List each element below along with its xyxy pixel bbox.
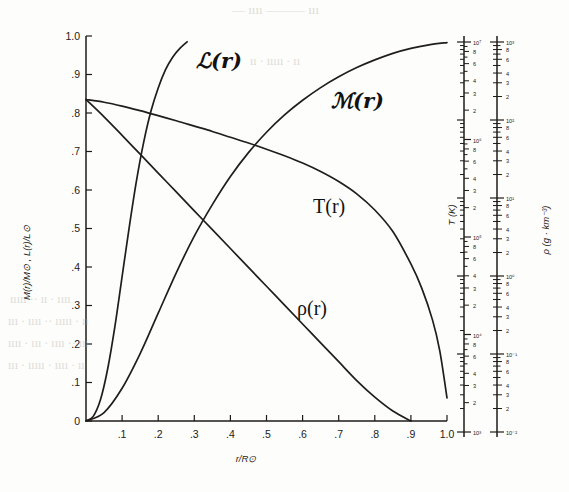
temperature-minor-label: 8 bbox=[473, 49, 476, 55]
left-tick-label: .1 bbox=[71, 376, 80, 388]
right-density-axis: 10³8643210²8643210¹8643210⁰8643210⁻¹8643… bbox=[490, 36, 551, 437]
temperature-curve-label: T(r) bbox=[313, 195, 345, 218]
density-minor-label: 8 bbox=[506, 47, 509, 53]
density-minor-label: 3 bbox=[506, 80, 509, 86]
density-minor-label: 2 bbox=[506, 250, 509, 256]
temperature-decade-label: 10⁷ bbox=[473, 40, 481, 46]
curve-labels: ℒ(r) ℳ(r) T(r) ρ(r) bbox=[196, 48, 384, 320]
temperature-minor-label: 8 bbox=[473, 342, 476, 348]
temperature-minor-label: 8 bbox=[473, 147, 476, 153]
temperature-minor-label: 4 bbox=[473, 273, 476, 279]
temperature-minor-label: 3 bbox=[473, 383, 476, 389]
density-minor-label: 6 bbox=[506, 291, 509, 297]
temperature-decade-label: 10⁴ bbox=[473, 333, 482, 339]
solar-structure-figure: — ıııı ——— ııı ıı · ııııı · ıı ııııı ·· … bbox=[0, 0, 569, 492]
temperature-decade-label: 10⁶ bbox=[473, 138, 482, 144]
bottom-tick-label: .1 bbox=[118, 428, 127, 440]
bottom-axis: .1.2.3.4.5.6.7.8.91.0 r/R⊙ bbox=[86, 415, 454, 464]
figure-canvas: 0.1.2.3.4.5.6.7.8.91.0 M(r)/M⊙ , L(r)/L⊙… bbox=[0, 0, 569, 492]
temperature-minor-label: 6 bbox=[473, 256, 476, 262]
density-minor-label: 4 bbox=[506, 383, 509, 389]
density-minor-label: 3 bbox=[506, 158, 509, 164]
left-tick-label: 1.0 bbox=[65, 30, 80, 42]
temperature-axis-title: T (K) bbox=[446, 204, 457, 225]
temperature-minor-label: 3 bbox=[473, 91, 476, 97]
temperature-minor-label: 4 bbox=[473, 371, 476, 377]
density-minor-label: 2 bbox=[506, 172, 509, 178]
density-decade-label: 10¹ bbox=[506, 196, 514, 202]
bottom-tick-label: .6 bbox=[298, 428, 307, 440]
left-tick-label: .3 bbox=[71, 299, 80, 311]
left-tick-label: .8 bbox=[71, 107, 80, 119]
density-minor-label: 4 bbox=[506, 305, 509, 311]
density-minor-label: 4 bbox=[506, 71, 509, 77]
density-minor-label: 8 bbox=[506, 359, 509, 365]
density-minor-label: 3 bbox=[506, 314, 509, 320]
temperature-minor-label: 6 bbox=[473, 61, 476, 67]
left-tick-label: .5 bbox=[71, 222, 80, 234]
density-minor-label: 8 bbox=[506, 281, 509, 287]
temperature-minor-label: 2 bbox=[473, 205, 476, 211]
density-decade-label: 10⁰ bbox=[506, 274, 515, 280]
density-minor-label: 2 bbox=[506, 406, 509, 412]
left-axis: 0.1.2.3.4.5.6.7.8.91.0 M(r)/M⊙ , L(r)/L⊙ bbox=[21, 30, 92, 427]
temperature-minor-label: 4 bbox=[473, 176, 476, 182]
temperature-minor-label: 8 bbox=[473, 244, 476, 250]
left-tick-label: .2 bbox=[71, 338, 80, 350]
density-decade-label: 10² bbox=[506, 118, 514, 124]
left-axis-title: M(r)/M⊙ , L(r)/L⊙ bbox=[21, 225, 32, 300]
bottom-tick-label: .9 bbox=[407, 428, 416, 440]
density-decade-label: 10³ bbox=[506, 40, 514, 46]
temperature-minor-label: 6 bbox=[473, 159, 476, 165]
temperature-minor-label: 6 bbox=[473, 354, 476, 360]
density-minor-label: 6 bbox=[506, 135, 509, 141]
density-decade-label: 10⁻¹ bbox=[506, 352, 517, 358]
left-tick-label: 0 bbox=[74, 415, 80, 427]
density-minor-label: 4 bbox=[506, 227, 509, 233]
density-minor-label: 6 bbox=[506, 369, 509, 375]
density-minor-label: 4 bbox=[506, 149, 509, 155]
bottom-tick-label: 1.0 bbox=[440, 428, 455, 440]
left-tick-label: .4 bbox=[71, 261, 80, 273]
bottom-tick-label: .2 bbox=[154, 428, 163, 440]
density-minor-label: 3 bbox=[506, 392, 509, 398]
luminosity-curve-label: ℒ(r) bbox=[196, 48, 242, 73]
density-minor-label: 6 bbox=[506, 57, 509, 63]
temperature-minor-label: 3 bbox=[473, 188, 476, 194]
temperature-minor-label: 2 bbox=[473, 303, 476, 309]
bottom-axis-title: r/R⊙ bbox=[236, 453, 257, 464]
density-minor-label: 3 bbox=[506, 236, 509, 242]
bottom-tick-label: .5 bbox=[262, 428, 271, 440]
density-axis-title: ρ (g · km⁻³) bbox=[540, 206, 551, 256]
plot-curves bbox=[86, 42, 447, 421]
bottom-tick-label: .8 bbox=[370, 428, 379, 440]
bottom-tick-label: .4 bbox=[226, 428, 235, 440]
bottom-tick-label: .7 bbox=[334, 428, 343, 440]
right-temperature-axis: 10⁷8643210⁶8643210⁵8643210⁴8643210³ T (K… bbox=[446, 36, 482, 437]
left-tick-label: .7 bbox=[71, 145, 80, 157]
density-decade-label: 10⁻² bbox=[506, 430, 517, 436]
temperature-decade-label: 10³ bbox=[473, 430, 481, 436]
mass-curve-label: ℳ(r) bbox=[331, 88, 384, 113]
bottom-tick-label: .3 bbox=[190, 428, 199, 440]
density-curve bbox=[86, 100, 411, 421]
temperature-minor-label: 2 bbox=[473, 400, 476, 406]
density-minor-label: 2 bbox=[506, 328, 509, 334]
left-tick-label: .6 bbox=[71, 184, 80, 196]
luminosity-curve bbox=[86, 42, 187, 421]
density-minor-label: 8 bbox=[506, 203, 509, 209]
density-curve-label: ρ(r) bbox=[297, 297, 327, 320]
density-minor-label: 6 bbox=[506, 213, 509, 219]
left-tick-label: .9 bbox=[71, 68, 80, 80]
density-minor-label: 2 bbox=[506, 94, 509, 100]
temperature-minor-label: 2 bbox=[473, 108, 476, 114]
density-minor-label: 8 bbox=[506, 125, 509, 131]
temperature-decade-label: 10⁵ bbox=[473, 235, 482, 241]
temperature-minor-label: 3 bbox=[473, 286, 476, 292]
temperature-minor-label: 4 bbox=[473, 78, 476, 84]
